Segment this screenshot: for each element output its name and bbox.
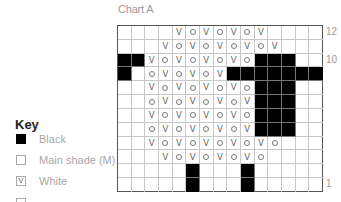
main-shade-cell (132, 150, 146, 164)
circle-stitch-icon (149, 99, 155, 105)
main-shade-cell (296, 178, 310, 192)
main-shade-cell (282, 164, 296, 178)
circle-stitch-icon (176, 126, 182, 132)
black-stitch-cell (255, 123, 269, 137)
o-stitch-cell (159, 54, 173, 68)
circle-stitch-icon (162, 140, 168, 146)
o-stitch-cell (159, 137, 173, 151)
v-stitch-icon: V (159, 95, 173, 109)
o-stitch-cell (214, 137, 228, 151)
row-label-10: 10 (326, 54, 337, 65)
main-shade-cell (282, 40, 296, 54)
circle-stitch-icon (203, 99, 209, 105)
main-shade-cell (268, 150, 282, 164)
o-stitch-cell (186, 137, 200, 151)
black-stitch-cell (241, 164, 255, 178)
black-stitch-cell (282, 81, 296, 95)
v-stitch-icon: V (214, 67, 228, 81)
circle-stitch-icon (217, 57, 223, 63)
main-shade-cell (296, 26, 310, 40)
black-stitch-cell (282, 123, 296, 137)
v-stitch-icon: V (227, 54, 241, 68)
main-shade-cell (268, 178, 282, 192)
main-shade-cell (296, 81, 310, 95)
black-stitch-cell (268, 81, 282, 95)
o-stitch-cell (255, 40, 269, 54)
black-stitch-cell (186, 164, 200, 178)
main-shade-cell (132, 123, 146, 137)
row-label-12: 12 (326, 26, 337, 37)
o-stitch-cell (186, 109, 200, 123)
main-shade-cell (309, 54, 323, 68)
main-shade-cell (132, 178, 146, 192)
v-stitch-icon: V (145, 54, 159, 68)
main-shade-cell (282, 137, 296, 151)
main-shade-cell (309, 150, 323, 164)
circle-stitch-icon (190, 112, 196, 118)
circle-stitch-icon (258, 43, 264, 49)
black-stitch-cell (186, 178, 200, 192)
o-stitch-cell (200, 67, 214, 81)
key-label: Main shade (M) (39, 154, 115, 166)
o-stitch-cell (145, 123, 159, 137)
v-stitch-icon: V (227, 137, 241, 151)
black-stitch-cell (255, 67, 269, 81)
v-stitch-icon: V (159, 40, 173, 54)
black-stitch-cell (255, 109, 269, 123)
o-stitch-cell (227, 150, 241, 164)
circle-stitch-icon (162, 85, 168, 91)
v-stitch-icon: V (200, 137, 214, 151)
v-stitch-icon: V (186, 67, 200, 81)
main-shade-cell (282, 150, 296, 164)
circle-stitch-icon (203, 43, 209, 49)
v-stitch-icon: V (227, 81, 241, 95)
o-stitch-cell (255, 150, 269, 164)
main-shade-cell (309, 109, 323, 123)
v-stitch-icon: V (186, 95, 200, 109)
key-label: Black (39, 133, 66, 145)
main-shade-cell (255, 164, 269, 178)
circle-stitch-icon (217, 140, 223, 146)
circle-stitch-icon (203, 154, 209, 160)
v-stitch-icon: V (186, 150, 200, 164)
main-shade-cell (132, 137, 146, 151)
main-shade-cell (296, 164, 310, 178)
main-shade-cell (118, 164, 132, 178)
v-stitch-icon: V (214, 40, 228, 54)
circle-stitch-icon (203, 126, 209, 132)
main-shade-cell (296, 137, 310, 151)
o-stitch-cell (173, 95, 187, 109)
black-stitch-cell (255, 54, 269, 68)
v-stitch-icon: V (214, 150, 228, 164)
main-shade-cell (118, 81, 132, 95)
main-shade-cell (268, 26, 282, 40)
v-stitch-icon: V (186, 40, 200, 54)
o-stitch-cell (200, 150, 214, 164)
key-item-main-shade: Main shade (M) (16, 154, 115, 166)
circle-stitch-icon (217, 85, 223, 91)
main-shade-cell (118, 137, 132, 151)
main-shade-cell (118, 95, 132, 109)
main-shade-cell (145, 26, 159, 40)
main-shade-cell (132, 95, 146, 109)
main-shade-cell (132, 109, 146, 123)
v-stitch-icon: V (173, 54, 187, 68)
main-shade-cell (296, 150, 310, 164)
o-stitch-cell (241, 137, 255, 151)
main-shade-cell (296, 95, 310, 109)
white-v-swatch-icon: V (16, 176, 26, 186)
circle-stitch-icon (231, 126, 237, 132)
black-stitch-cell (227, 67, 241, 81)
key-item-black: Black (16, 133, 66, 145)
circle-stitch-icon (176, 154, 182, 160)
o-stitch-cell (186, 81, 200, 95)
circle-stitch-icon (231, 43, 237, 49)
circle-stitch-icon (244, 112, 250, 118)
circle-stitch-icon (231, 99, 237, 105)
main-shade-cell (309, 178, 323, 192)
black-stitch-cell (309, 67, 323, 81)
o-stitch-cell (186, 54, 200, 68)
circle-stitch-icon (162, 112, 168, 118)
main-shade-cell (309, 40, 323, 54)
main-shade-cell (282, 178, 296, 192)
